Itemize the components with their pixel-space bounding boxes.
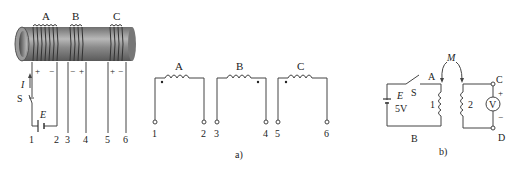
source-label: E	[39, 109, 46, 120]
dot-b	[257, 81, 259, 83]
figure-a: A B C 1 2 3 4 5 6 a)	[152, 60, 329, 161]
fig-a-coil-c-label: C	[297, 60, 304, 72]
voltmeter-plus: +	[498, 88, 503, 98]
voltmeter-label: V	[489, 99, 497, 110]
coil-c-minus: −	[118, 66, 123, 76]
coil-c-plus: +	[110, 66, 115, 76]
fig-a-terminal-1: 1	[152, 128, 157, 139]
coil-1-label: 1	[430, 99, 435, 110]
terminal-6: 6	[123, 134, 128, 145]
dot-c	[285, 81, 287, 83]
switch-label: S	[17, 93, 23, 104]
fig-b-caption: b)	[439, 146, 447, 158]
inductor-b	[227, 75, 251, 78]
fig-a-terminal-3: 3	[214, 128, 219, 139]
fig-a-coil-a-label: A	[175, 60, 183, 72]
fig-a-terminal-2: 2	[201, 128, 206, 139]
solenoid-figure: A B C I S E + − − + + − 1	[15, 10, 136, 145]
switch-blade-b	[406, 75, 419, 84]
fig-a-terminal-6: 6	[324, 128, 329, 139]
coil-2-label: 2	[468, 99, 473, 110]
terminal-d	[491, 126, 495, 130]
coil-b-plus: +	[79, 66, 84, 76]
terminal-3: 3	[65, 134, 70, 145]
node-d-label: D	[498, 132, 505, 143]
inductor-1	[439, 92, 442, 116]
mutual-label: M	[446, 52, 456, 63]
figure-b: V M A S E 5V 1 2 B C D + − b)	[383, 52, 505, 158]
current-label: I	[20, 79, 25, 90]
coil-b-label: B	[72, 10, 79, 22]
inductor-2	[461, 92, 464, 116]
dot-a	[161, 81, 163, 83]
inductor-a	[165, 75, 189, 78]
fig-a-coil-b-label: B	[236, 60, 243, 72]
fig-a-caption: a)	[235, 149, 243, 161]
terminal-4: 4	[83, 134, 88, 145]
fig-a-terminal-4: 4	[263, 128, 268, 139]
node-c-label: C	[496, 74, 503, 85]
node-b-label: B	[411, 133, 418, 144]
coil-a-plus: +	[35, 66, 40, 76]
current-arrow-icon	[28, 73, 32, 78]
terminal-2: 2	[54, 134, 59, 145]
fig-a-terminal-5: 5	[275, 128, 280, 139]
node-a-label: A	[428, 71, 436, 82]
cylinder-right-end	[128, 27, 136, 61]
coil-a-label: A	[42, 10, 50, 22]
diagram-canvas: A B C I S E + − − + + − 1	[0, 0, 518, 171]
terminal-5: 5	[105, 134, 110, 145]
source-b-label: E	[396, 90, 403, 101]
terminal-1: 1	[29, 134, 34, 145]
terminal-circles	[153, 120, 329, 124]
switch-b-label: S	[411, 87, 417, 98]
terminal-c	[491, 82, 495, 86]
source-b-value: 5V	[395, 103, 408, 114]
inductor-c	[288, 75, 312, 78]
voltmeter-minus: −	[498, 112, 503, 122]
coil-c-label: C	[113, 10, 120, 22]
coil-b-minus: −	[70, 66, 75, 76]
coil-a-minus: −	[49, 66, 54, 76]
